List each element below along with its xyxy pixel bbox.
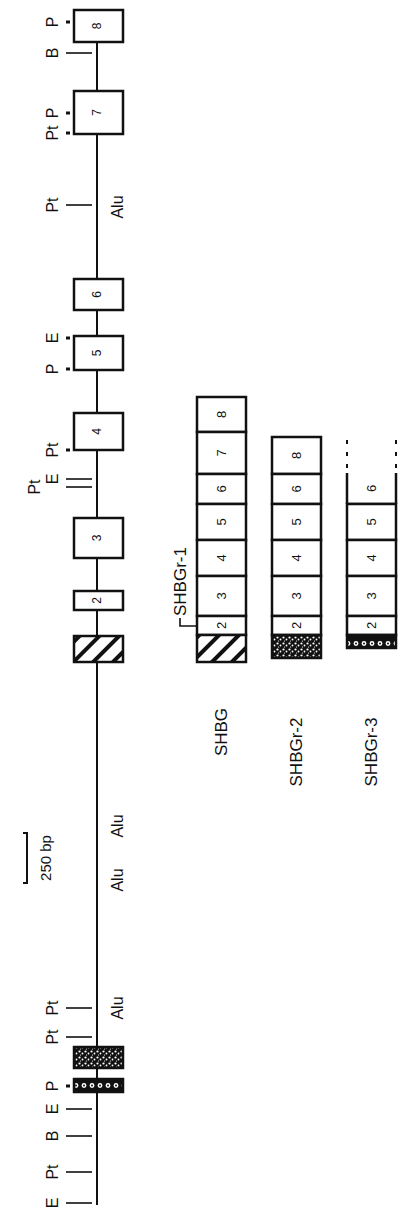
exon-number: 4 bbox=[214, 554, 229, 561]
transcript-exon: 4 bbox=[347, 540, 396, 576]
restriction-site: E bbox=[44, 1198, 93, 1209]
exon-number: 8 bbox=[214, 411, 229, 418]
exon-box bbox=[74, 1079, 123, 1092]
exon-box: 2 bbox=[74, 591, 123, 610]
exon-number: 8 bbox=[90, 22, 104, 29]
transcript-exon: 2 bbox=[347, 616, 396, 635]
restriction-site: B bbox=[44, 1131, 93, 1142]
transcript-maps: 8765432SHBG865432SHBGr-265432SHBGr-3SHBG… bbox=[171, 397, 398, 786]
exon-number: 3 bbox=[90, 534, 104, 541]
exon-box: 4 bbox=[74, 413, 123, 450]
transcript-exon: 6 bbox=[197, 474, 246, 504]
transcript-exon: 2 bbox=[197, 616, 246, 635]
restriction-site: P bbox=[44, 1081, 71, 1092]
exon-number: 2 bbox=[364, 622, 379, 629]
transcript-exon: 5 bbox=[197, 504, 246, 540]
transcript-shbgr-2: 865432SHBGr-2 bbox=[272, 437, 321, 786]
exon-number: 2 bbox=[289, 622, 304, 629]
transcript-shbg: 8765432SHBG bbox=[197, 397, 246, 756]
transcript-exon bbox=[197, 635, 246, 662]
transcript-exon: 5 bbox=[272, 504, 321, 540]
transcript-exon: 8 bbox=[272, 437, 321, 474]
exon-number: 4 bbox=[90, 428, 104, 435]
transcript-exon: 8 bbox=[197, 397, 246, 432]
restriction-site: E bbox=[44, 474, 93, 485]
alu-label: Alu bbox=[109, 996, 126, 1019]
restriction-site: P bbox=[44, 17, 71, 28]
site-label: E bbox=[44, 1104, 61, 1115]
transcript-exon: 6 bbox=[272, 474, 321, 504]
exon-number: 4 bbox=[364, 554, 379, 561]
exon-number: 6 bbox=[90, 291, 104, 298]
shbgr1-callout: SHBGr-1 bbox=[171, 547, 198, 626]
transcript-exon: 6 bbox=[346, 440, 397, 504]
restriction-site: Pt bbox=[44, 197, 93, 213]
restriction-site: E bbox=[44, 333, 71, 344]
site-label: B bbox=[44, 48, 61, 59]
site-label: E bbox=[44, 474, 61, 485]
transcript-exon: 4 bbox=[197, 540, 246, 576]
exon-number: 6 bbox=[214, 485, 229, 492]
exon-number: 6 bbox=[289, 485, 304, 492]
scale-bar: 250 bp bbox=[23, 833, 54, 883]
transcript-exon: 3 bbox=[197, 576, 246, 616]
genomic-map: 8765432PBPPtPtEPPtEPtPtPtPEBPtEAluAluAlu… bbox=[26, 10, 126, 1208]
site-label: P bbox=[44, 108, 61, 119]
site-label: Pt bbox=[44, 197, 61, 213]
restriction-site: Pt bbox=[44, 442, 71, 458]
exon-number: 4 bbox=[289, 554, 304, 561]
site-label: E bbox=[44, 333, 61, 344]
transcript-exon bbox=[272, 635, 321, 658]
restriction-site: Pt bbox=[44, 125, 71, 141]
callout-label: SHBGr-1 bbox=[171, 547, 190, 616]
exon-box: 3 bbox=[74, 518, 123, 558]
exon-box: 7 bbox=[74, 91, 123, 134]
restriction-site: E bbox=[44, 1104, 93, 1115]
transcript-shbgr-3: 65432SHBGr-3 bbox=[346, 440, 397, 786]
site-label: Pt bbox=[44, 1164, 61, 1180]
site-label: P bbox=[44, 364, 61, 375]
exon-number: 2 bbox=[90, 597, 104, 604]
exon-number: 5 bbox=[289, 518, 304, 525]
site-label: Pt bbox=[44, 125, 61, 141]
transcript-name: SHBGr-3 bbox=[362, 718, 381, 787]
exon-number: 7 bbox=[90, 109, 104, 116]
exon-box bbox=[74, 636, 123, 662]
transcript-exon: 7 bbox=[197, 432, 246, 474]
restriction-site: P bbox=[44, 108, 71, 119]
exon-number: 7 bbox=[214, 449, 229, 456]
exon-number: 2 bbox=[214, 622, 229, 629]
transcript-exon: 3 bbox=[272, 576, 321, 616]
transcript-exon: 5 bbox=[347, 504, 396, 540]
transcript-exon: 4 bbox=[272, 540, 321, 576]
gene-structure-diagram: 8765432PBPPtPtEPPtEPtPtPtPEBPtEAluAluAlu… bbox=[0, 0, 412, 1229]
transcript-exon: 2 bbox=[272, 616, 321, 635]
alu-label: Alu bbox=[109, 814, 126, 837]
restriction-site: Pt bbox=[44, 1029, 93, 1045]
exon-number: 5 bbox=[364, 518, 379, 525]
exon-number: 3 bbox=[214, 592, 229, 599]
transcript-exon bbox=[347, 635, 396, 648]
site-label: P bbox=[44, 1081, 61, 1092]
site-label: E bbox=[44, 1198, 61, 1209]
site-label: P bbox=[44, 17, 61, 28]
restriction-site: Pt bbox=[44, 1164, 93, 1180]
scale-bar-label: 250 bp bbox=[37, 835, 54, 881]
transcript-name: SHBGr-2 bbox=[287, 718, 306, 787]
exon-number: 3 bbox=[364, 592, 379, 599]
alu-label: Alu bbox=[109, 195, 126, 218]
exon-number: 8 bbox=[289, 452, 304, 459]
transcript-exon: 3 bbox=[347, 576, 396, 616]
restriction-site: P bbox=[44, 364, 71, 375]
transcript-name: SHBG bbox=[212, 708, 231, 756]
exon-box: 5 bbox=[74, 336, 123, 370]
alu-label: Alu bbox=[109, 868, 126, 891]
site-label: Pt bbox=[44, 1000, 61, 1016]
exon-box: 6 bbox=[74, 279, 123, 310]
exon-box: 8 bbox=[74, 10, 123, 42]
site-label: Pt bbox=[44, 442, 61, 458]
exon-number: 5 bbox=[90, 349, 104, 356]
exon-number: 6 bbox=[364, 485, 379, 492]
exon-number: 3 bbox=[289, 592, 304, 599]
restriction-site: Pt bbox=[44, 1000, 93, 1016]
